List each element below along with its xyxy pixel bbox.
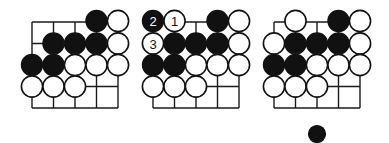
white-stone: [349, 33, 370, 54]
white-stone: [349, 10, 370, 31]
white-stone: [285, 76, 306, 97]
white-stone: [142, 76, 163, 97]
go-diagram: 213: [0, 0, 389, 143]
black-stone: [306, 33, 327, 54]
white-stone: [306, 54, 327, 75]
white-stone: [43, 76, 64, 97]
black-stone: [64, 33, 85, 54]
white-stone: [228, 33, 249, 54]
black-stone: [43, 54, 64, 75]
white-stone: [185, 54, 206, 75]
black-stone-to-play: [309, 126, 326, 143]
move-number-label: 3: [149, 37, 156, 52]
black-stone: [86, 10, 107, 31]
black-stone: [21, 54, 42, 75]
white-stone: [228, 54, 249, 75]
white-stone: [263, 76, 284, 97]
white-stone: [164, 76, 185, 97]
black-stone: [43, 33, 64, 54]
black-stone: [86, 33, 107, 54]
go-board-2: 213: [142, 10, 249, 108]
black-stone: [142, 54, 163, 75]
white-stone: [228, 10, 249, 31]
white-stone: [107, 33, 128, 54]
move-number-label: 2: [149, 14, 156, 29]
white-stone: [328, 54, 349, 75]
white-stone: [21, 76, 42, 97]
white-stone: [107, 54, 128, 75]
white-stone: [107, 10, 128, 31]
black-stone: [207, 33, 228, 54]
white-stone: [349, 54, 370, 75]
white-stone: [263, 33, 284, 54]
black-stone: [263, 54, 284, 75]
go-board-3: [263, 10, 370, 108]
white-stone: [64, 76, 85, 97]
black-stone: [328, 10, 349, 31]
black-stone: [164, 33, 185, 54]
white-stone: [285, 10, 306, 31]
black-stone: [285, 54, 306, 75]
black-stone: [207, 10, 228, 31]
white-stone: [306, 76, 327, 97]
black-stone: [164, 54, 185, 75]
white-stone: [86, 54, 107, 75]
black-stone: [285, 33, 306, 54]
white-stone: [207, 54, 228, 75]
white-stone: [185, 76, 206, 97]
white-stone: [64, 54, 85, 75]
move-number-label: 1: [171, 14, 178, 29]
go-board-1: [21, 10, 128, 108]
black-stone: [328, 33, 349, 54]
black-stone: [185, 33, 206, 54]
extra-stones: [309, 126, 326, 143]
